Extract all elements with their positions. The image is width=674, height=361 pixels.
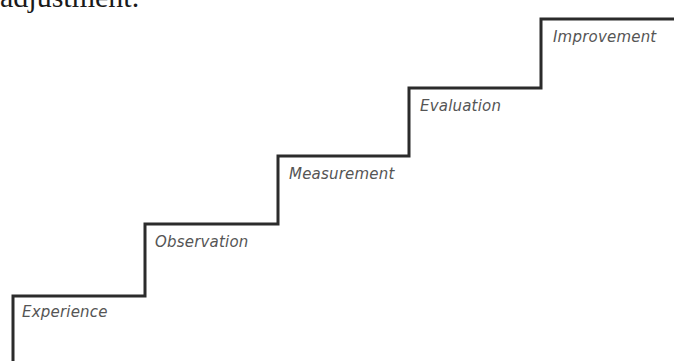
step-label-observation: Observation <box>155 233 249 251</box>
step-label-evaluation: Evaluation <box>420 97 501 115</box>
staircase-line <box>13 19 674 361</box>
step-label-measurement: Measurement <box>289 165 395 183</box>
step-label-experience: Experience <box>22 303 108 321</box>
step-label-improvement: Improvement <box>553 28 656 46</box>
